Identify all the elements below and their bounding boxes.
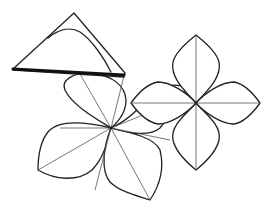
left-flower-center — [110, 127, 113, 130]
folding-diagram — [0, 0, 274, 211]
right-flower-center — [195, 102, 198, 105]
folded-triangle — [13, 13, 125, 77]
left-flower-petal-bottom — [104, 128, 162, 200]
